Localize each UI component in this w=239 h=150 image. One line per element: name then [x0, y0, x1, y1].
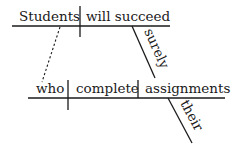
- sentence-diagram: Students will succeed surely who complet…: [0, 0, 239, 150]
- main-subject: Students: [19, 8, 80, 24]
- relative-connector: [42, 27, 60, 82]
- relative-subject: who: [36, 80, 64, 96]
- determiner-modifier: their: [177, 97, 207, 134]
- relative-verb: complete: [76, 80, 139, 96]
- adverb-modifier: surely: [141, 26, 173, 71]
- relative-object: assignments: [145, 80, 230, 96]
- main-predicate: will succeed: [86, 8, 171, 24]
